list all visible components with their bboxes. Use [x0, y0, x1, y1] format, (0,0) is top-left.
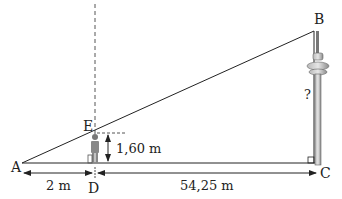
measure-DE: 1,60 m: [116, 141, 161, 156]
label-B: B: [314, 11, 324, 27]
label-A: A: [10, 159, 22, 175]
diagram-canvas: A B C D E 1,60 m 2 m 54,25 m ?: [0, 0, 342, 199]
measure-AD: 2 m: [46, 178, 71, 193]
person-icon: [88, 134, 99, 163]
line-AB: [22, 31, 314, 163]
measure-DC: 54,25 m: [180, 178, 234, 193]
label-C: C: [320, 165, 331, 181]
label-E: E: [83, 118, 93, 134]
measure-BC: ?: [304, 87, 311, 102]
right-angle-marker: [308, 157, 314, 163]
label-D: D: [88, 180, 99, 196]
